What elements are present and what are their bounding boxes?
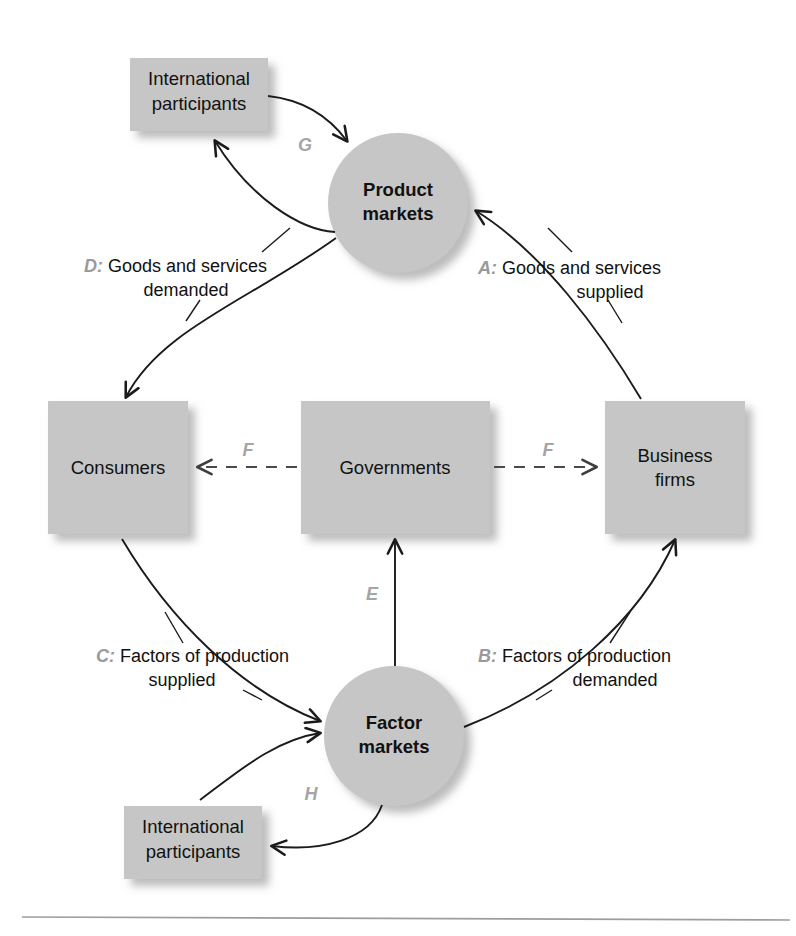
connector-h-factor-to-international-bottom: [272, 805, 382, 847]
flow-f-left-key: F: [243, 440, 255, 460]
international-bottom-label-line1: International: [142, 816, 244, 837]
flow-c-text-line2: supplied: [148, 670, 215, 690]
flow-h-key: H: [305, 784, 319, 804]
diagram-canvas: International participants Product marke…: [0, 0, 796, 936]
flow-b-key: B:: [478, 646, 497, 666]
node-governments[interactable]: Governments: [301, 401, 490, 534]
leader-line-a: [548, 228, 572, 252]
flow-b-text-line1: Factors of production: [497, 646, 671, 666]
international-bottom-label-line2: participants: [146, 841, 241, 862]
leader-line-b: [610, 612, 630, 643]
business-firms-label-line2: firms: [655, 469, 695, 490]
node-international-participants-top[interactable]: International participants: [130, 58, 268, 131]
flow-b-group: B: Factors of production: [478, 646, 671, 666]
flow-c-key: C:: [96, 646, 115, 666]
international-top-label-line2: participants: [152, 93, 247, 114]
flow-b-text-line2: demanded: [572, 670, 657, 690]
flow-f-right-key: F: [543, 440, 555, 460]
node-international-participants-bottom[interactable]: International participants: [124, 806, 262, 879]
leader-line-b-bottom: [536, 690, 552, 700]
flow-label-c: C: Factors of production supplied: [96, 646, 289, 690]
node-product-markets[interactable]: Product markets: [328, 133, 468, 273]
circular-flow-diagram: International participants Product marke…: [0, 0, 796, 936]
leader-line-a-bottom: [608, 300, 622, 323]
leader-line-d-bottom: [186, 300, 200, 321]
flow-label-b: B: Factors of production demanded: [478, 646, 671, 690]
leader-line-c-bottom: [243, 690, 262, 700]
consumers-label: Consumers: [71, 457, 166, 478]
product-markets-label-line2: markets: [363, 203, 434, 224]
flow-g-key: G: [298, 135, 312, 155]
bottom-divider-rule: [22, 917, 790, 920]
leader-line-c: [165, 612, 183, 643]
flow-c-text-line1: Factors of production: [115, 646, 289, 666]
international-top-label-line1: International: [148, 68, 250, 89]
flow-d-key: D:: [84, 256, 103, 276]
business-firms-label-line1: Business: [637, 445, 712, 466]
connector-c-consumers-to-factor: [122, 539, 320, 721]
flow-a-text-line2: supplied: [576, 282, 643, 302]
flow-d-text-line1: Goods and services: [103, 256, 267, 276]
node-business-firms[interactable]: Business firms: [605, 401, 745, 534]
governments-label: Governments: [339, 457, 450, 478]
flow-d-group: D: Goods and services: [84, 256, 267, 276]
product-markets-label-line1: Product: [363, 179, 433, 200]
flow-a-key: A:: [477, 258, 497, 278]
flow-d-text-line2: demanded: [143, 280, 228, 300]
flow-a-text-line1: Goods and services: [497, 258, 661, 278]
business-firms-box[interactable]: [605, 401, 745, 534]
factor-markets-label-line1: Factor: [366, 712, 423, 733]
connector-product-markets-to-international-top: [215, 141, 335, 232]
flow-c-group: C: Factors of production: [96, 646, 289, 666]
leader-line-d: [262, 228, 290, 252]
node-consumers[interactable]: Consumers: [48, 401, 188, 534]
flow-label-d: D: Goods and services demanded: [84, 256, 267, 300]
connector-international-bottom-to-factor: [200, 733, 320, 800]
node-factor-markets[interactable]: Factor markets: [324, 666, 464, 806]
connector-b-factor-to-business: [464, 540, 675, 727]
flow-e-key: E: [366, 584, 379, 604]
factor-markets-label-line2: markets: [359, 736, 430, 757]
flow-a-group: A: Goods and services: [477, 258, 661, 278]
